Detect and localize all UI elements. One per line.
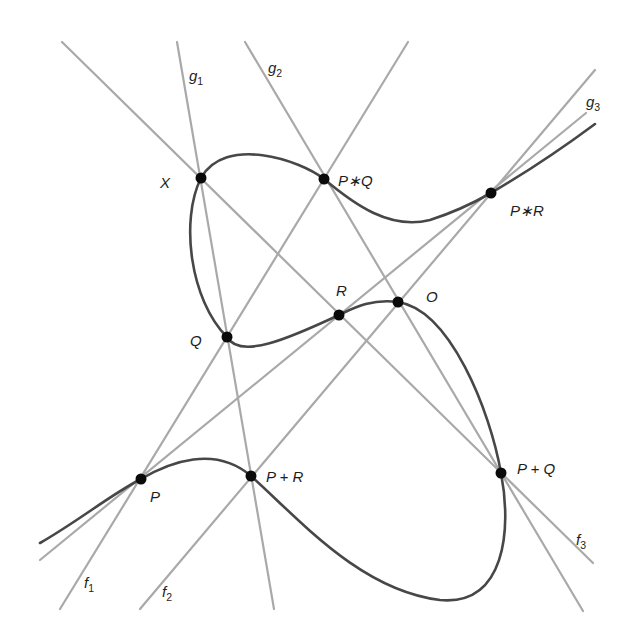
- elliptic-curve-diagram: f1f2f3g1g2g3XP∗QP∗RROQPP + RP + Q: [0, 0, 635, 644]
- point-label-O: O: [426, 288, 438, 305]
- point-label-Q: Q: [190, 332, 202, 349]
- point-PpQ: [496, 468, 507, 479]
- point-O: [393, 297, 404, 308]
- line-g2: [245, 42, 583, 611]
- point-label-R: R: [336, 282, 347, 299]
- point-X: [196, 173, 207, 184]
- line-label-g1: g1: [189, 67, 203, 87]
- point-PsQ: [319, 174, 330, 185]
- point-label-P: P: [150, 488, 160, 505]
- line-label-f1: f1: [84, 574, 94, 594]
- point-label-PsR: P∗R: [510, 202, 544, 219]
- line-label-f2: f2: [162, 583, 172, 603]
- line-f2: [140, 70, 595, 609]
- point-label-PsQ: P∗Q: [338, 172, 373, 189]
- point-label-X: X: [159, 174, 171, 191]
- line-f3: [62, 42, 593, 563]
- construction-lines: [40, 42, 595, 611]
- point-label-PpQ: P + Q: [517, 460, 556, 477]
- line-g1: [177, 42, 274, 609]
- point-Q: [222, 332, 233, 343]
- point-PsR: [486, 188, 497, 199]
- line-label-g3: g3: [586, 93, 600, 113]
- point-PpR: [246, 471, 257, 482]
- line-label-g2: g2: [268, 59, 282, 79]
- point-label-PpR: P + R: [266, 468, 304, 485]
- elliptic-curve: [40, 124, 595, 600]
- line-f1: [60, 42, 408, 609]
- point-R: [334, 310, 345, 321]
- point-P: [136, 474, 147, 485]
